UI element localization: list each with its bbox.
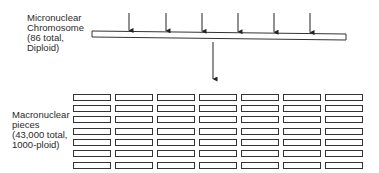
macronuclear-piece <box>158 151 195 157</box>
macronuclear-piece <box>200 129 237 135</box>
micronuclear-chromosome-bar <box>92 31 346 40</box>
macronuclear-piece <box>116 151 153 157</box>
macronuclear-piece <box>74 95 111 101</box>
macronuclear-piece <box>116 140 153 146</box>
macronuclear-piece <box>326 95 363 101</box>
macronuclear-piece <box>284 163 321 169</box>
macronuclear-piece <box>326 106 363 112</box>
macronuclear-piece <box>326 140 363 146</box>
macronuclear-piece <box>284 95 321 101</box>
macronuclear-piece <box>200 106 237 112</box>
macronuclear-piece <box>158 95 195 101</box>
macronuclear-piece <box>242 106 279 112</box>
chromosome-fragmentation-diagram <box>0 0 379 173</box>
macronuclear-piece <box>74 151 111 157</box>
macronuclear-piece <box>284 106 321 112</box>
macronuclear-piece <box>158 106 195 112</box>
macronuclear-piece <box>242 163 279 169</box>
macronuclear-piece <box>200 140 237 146</box>
macronuclear-piece <box>284 151 321 157</box>
macronuclear-piece <box>116 95 153 101</box>
macronuclear-piece <box>116 163 153 169</box>
macronuclear-piece <box>74 117 111 123</box>
macronuclear-piece <box>116 129 153 135</box>
macronuclear-piece <box>74 140 111 146</box>
macronuclear-piece <box>326 151 363 157</box>
macronuclear-piece <box>158 140 195 146</box>
macronuclear-piece <box>74 106 111 112</box>
macronuclear-piece <box>158 117 195 123</box>
cut-site-arrows <box>129 13 310 33</box>
macronuclear-piece <box>242 129 279 135</box>
macronuclear-piece <box>242 151 279 157</box>
macronuclear-pieces-grid <box>74 95 363 169</box>
macronuclear-piece <box>200 163 237 169</box>
macronuclear-piece <box>158 129 195 135</box>
macronuclear-piece <box>284 117 321 123</box>
chromosome-bar-shape <box>92 31 346 40</box>
macronuclear-piece <box>242 95 279 101</box>
macronuclear-piece <box>326 163 363 169</box>
macronuclear-piece <box>116 117 153 123</box>
macronuclear-piece <box>242 117 279 123</box>
macronuclear-piece <box>158 163 195 169</box>
macronuclear-piece <box>242 140 279 146</box>
macronuclear-piece <box>200 117 237 123</box>
macronuclear-piece <box>116 106 153 112</box>
macronuclear-piece <box>326 129 363 135</box>
macronuclear-piece <box>326 117 363 123</box>
macronuclear-piece <box>200 151 237 157</box>
macronuclear-piece <box>284 129 321 135</box>
macronuclear-piece <box>74 129 111 135</box>
macronuclear-piece <box>74 163 111 169</box>
macronuclear-piece <box>284 140 321 146</box>
macronuclear-piece <box>200 95 237 101</box>
